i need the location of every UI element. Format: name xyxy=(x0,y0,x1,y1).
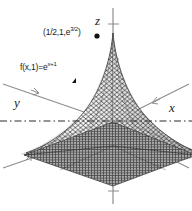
surface-plot-figure: z x y (1/2,1,e3/2) f(x,1)=ex+1 xyxy=(0,0,192,211)
markers-layer xyxy=(0,0,192,211)
axis-label-z: z xyxy=(95,14,100,27)
function-annotation-exponent: x+1 xyxy=(47,61,56,67)
axis-label-x: x xyxy=(169,101,175,114)
point-annotation-text: (1/2,1,e xyxy=(43,27,70,37)
point-annotation: (1/2,1,e3/2) xyxy=(43,28,81,37)
function-trace-marker-icon xyxy=(72,78,76,83)
point-marker-dot xyxy=(94,33,99,38)
axis-label-y: y xyxy=(14,96,20,109)
function-annotation: f(x,1)=ex+1 xyxy=(20,63,57,72)
function-annotation-text: f(x,1)=e xyxy=(20,62,47,72)
point-annotation-close: ) xyxy=(78,27,81,37)
point-annotation-exponent: 3/2 xyxy=(70,26,78,32)
